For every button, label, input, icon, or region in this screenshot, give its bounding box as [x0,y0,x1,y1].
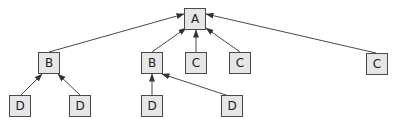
node-a: A [184,8,206,30]
tree-diagram: A B B C C C D D D D [0,0,395,126]
node-d-4: D [221,95,243,117]
node-label: C [192,57,200,69]
node-label: C [236,57,244,69]
edge-b1-to-a [49,14,184,52]
node-label: D [15,100,24,112]
node-b-middle: B [141,52,163,74]
node-label: A [191,13,199,25]
edge-b2-to-a [152,28,186,52]
node-c-first: C [185,52,207,74]
edge-c2-to-a [206,28,240,52]
node-label: B [148,57,156,69]
node-label: B [45,57,53,69]
edge-d1-to-b1 [21,74,42,95]
node-d-1: D [9,95,31,117]
node-label: D [147,100,156,112]
node-b-left: B [38,52,60,74]
node-label: D [75,100,84,112]
edge-c3-to-a [206,14,376,53]
node-label: C [373,58,381,70]
node-c-far-right: C [366,53,388,75]
node-label: D [227,100,236,112]
node-d-3: D [141,95,163,117]
edge-d4-to-b2 [162,74,229,96]
edge-d2-to-b1 [58,74,80,95]
node-d-2: D [69,95,91,117]
node-c-second: C [229,52,251,74]
